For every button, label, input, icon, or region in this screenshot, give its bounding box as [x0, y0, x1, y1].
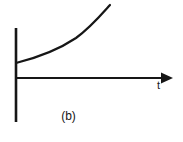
time-axis-label: t: [157, 80, 160, 91]
arrow-right-icon: [161, 73, 173, 84]
figure-panel-b: t (b): [0, 0, 183, 142]
exponential-curve: [16, 5, 110, 63]
figure-caption: (b): [0, 110, 137, 122]
